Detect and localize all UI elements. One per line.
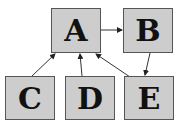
node-c: C — [5, 76, 55, 120]
node-e: E — [124, 76, 174, 120]
edge-c-to-a — [32, 54, 55, 76]
node-b: B — [123, 8, 173, 53]
diagram-canvas: A B C D E — [0, 0, 184, 131]
node-a: A — [51, 8, 101, 53]
edge-d-to-a — [80, 54, 82, 76]
edge-b-to-e — [145, 53, 150, 75]
edge-e-to-a — [96, 54, 130, 77]
node-d: D — [65, 76, 115, 120]
